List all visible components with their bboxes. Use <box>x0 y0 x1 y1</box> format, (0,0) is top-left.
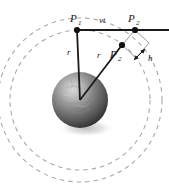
label-r-vertical: r <box>67 47 71 57</box>
label-vt: vt <box>99 15 106 25</box>
offset-quadrilateral <box>122 30 149 58</box>
label-p2-prime-letter: P <box>109 48 117 60</box>
label-p2-prime-subscript: 2 <box>118 55 122 63</box>
h-offset-arrow-reverse <box>134 52 142 60</box>
label-p1: P 1 <box>69 12 82 27</box>
label-p2-letter: P <box>127 12 135 24</box>
label-p2-subscript: 2 <box>136 19 140 27</box>
physics-diagram-svg: P 1 vt P 2 P 2 ′ r r h <box>0 0 169 184</box>
label-h: h <box>148 53 153 63</box>
figure-container: P 1 vt P 2 P 2 ′ r r h <box>0 0 169 184</box>
label-p2: P 2 <box>127 12 140 27</box>
label-r-diagonal: r <box>97 50 101 60</box>
point-marker-p2-prime <box>119 42 125 48</box>
label-p1-subscript: 1 <box>78 19 82 27</box>
label-p1-letter: P <box>69 12 77 24</box>
point-marker-p1 <box>74 27 80 33</box>
point-marker-p2 <box>132 27 138 33</box>
